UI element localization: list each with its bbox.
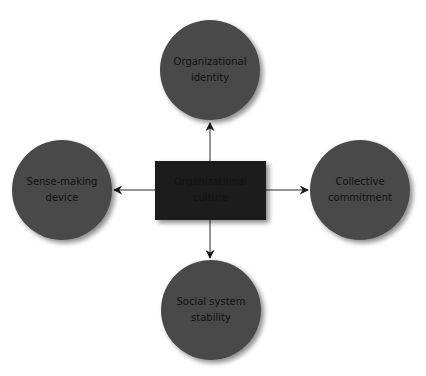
node-label-right-line1: Collective <box>310 174 410 190</box>
node-label-bottom: Social system stability <box>161 294 261 326</box>
node-label-right: Collective commitment <box>310 174 410 206</box>
node-label-top: Organizational identity <box>160 54 260 86</box>
node-label-bottom-line1: Social system <box>161 294 261 310</box>
node-label-right-line2: commitment <box>310 190 410 206</box>
node-label-top-line1: Organizational <box>160 54 260 70</box>
center-label-line1: Organizational <box>155 174 266 190</box>
node-label-left: Sense-making device <box>12 174 112 206</box>
node-label-left-line1: Sense-making <box>12 174 112 190</box>
center-label: Organizational culture <box>155 174 266 206</box>
node-label-left-line2: device <box>12 190 112 206</box>
center-label-line2: culture <box>155 190 266 206</box>
node-label-bottom-line2: stability <box>161 310 261 326</box>
node-label-top-line2: identity <box>160 70 260 86</box>
